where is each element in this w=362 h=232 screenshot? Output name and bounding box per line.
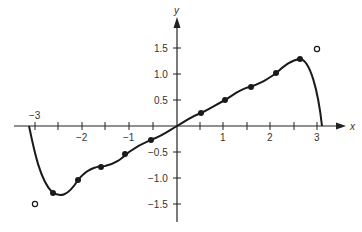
y-axis-arrow-icon — [174, 17, 181, 28]
x-tick-label: 1 — [220, 132, 226, 143]
y-tick-label: 1.0 — [154, 69, 168, 80]
x-tick-label: −2 — [76, 132, 88, 143]
chart: x y −3 −2 −1 1 2 3 1.5 1.0 0.5 −0.5 −1.0… — [0, 0, 362, 232]
x-tick-label: −3 — [29, 110, 41, 121]
x-tick-label: −1 — [123, 132, 135, 143]
y-tick-label: −1.5 — [148, 199, 168, 210]
x-axis-label: x — [349, 121, 356, 132]
y-axis-label: y — [173, 5, 180, 16]
x-axis-arrow-icon — [336, 123, 346, 130]
y-tick-label: 1.5 — [154, 43, 168, 54]
y-tick-label: −1.0 — [148, 173, 168, 184]
x-tick-label: 2 — [267, 132, 273, 143]
curve-line — [29, 59, 322, 195]
x-tick-label: 3 — [314, 132, 320, 143]
y-tick-label: 0.5 — [154, 95, 168, 106]
y-tick-label: −0.5 — [148, 147, 168, 158]
